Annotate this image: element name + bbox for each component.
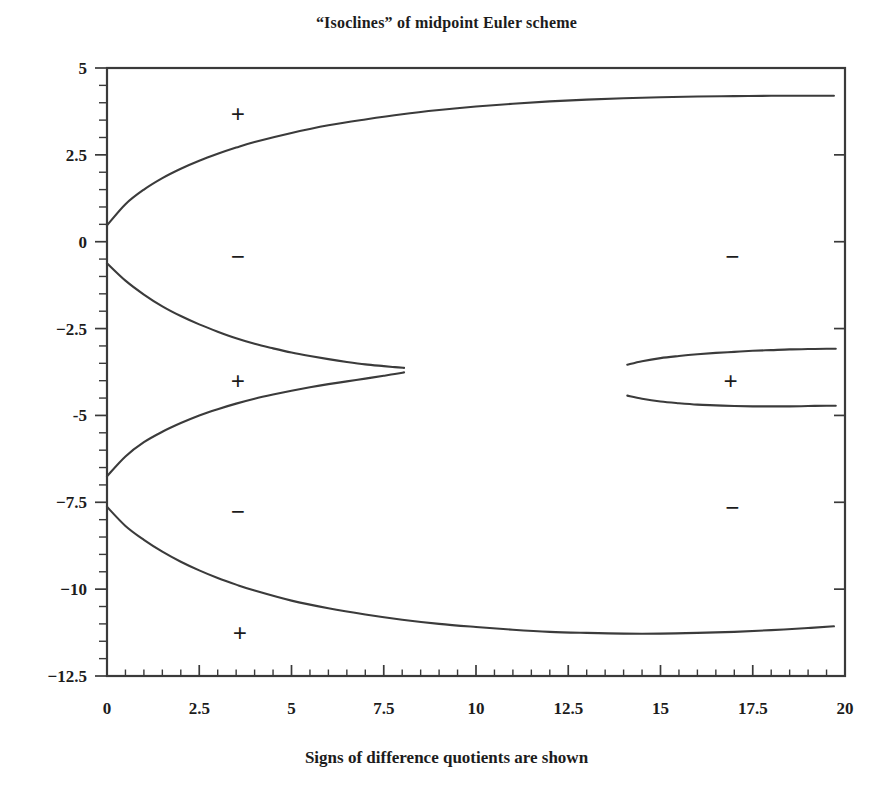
curve-third-branch xyxy=(107,372,404,476)
y-tick-labels: 52.50−2.5-5−7.5−10−12.5 xyxy=(48,59,87,686)
y-tick-label: −2.5 xyxy=(56,320,87,339)
sign-annotation: + xyxy=(231,101,245,128)
figure-container: “Isoclines” of midpoint Euler scheme 02.… xyxy=(0,0,893,801)
sign-annotations: +−+−+−+− xyxy=(231,101,740,646)
sign-annotation: + xyxy=(233,620,247,647)
curve-lower-branch xyxy=(107,507,834,634)
x-tick-label: 17.5 xyxy=(738,699,768,718)
curve-upper-branch xyxy=(107,96,834,226)
sign-annotation: − xyxy=(725,243,739,270)
x-tick-label: 12.5 xyxy=(553,699,583,718)
x-tick-label: 2.5 xyxy=(189,699,210,718)
sign-annotation: + xyxy=(723,368,737,395)
plot-area: 02.557.51012.51517.520 52.50−2.5-5−7.5−1… xyxy=(0,0,893,801)
x-tick-labels: 02.557.51012.51517.520 xyxy=(103,699,854,718)
x-tick-label: 5 xyxy=(287,699,296,718)
x-tick-label: 7.5 xyxy=(373,699,394,718)
x-tick-label: 0 xyxy=(103,699,112,718)
sign-annotation: − xyxy=(231,498,245,525)
sign-annotation: + xyxy=(231,368,245,395)
sign-annotation: − xyxy=(231,243,245,270)
x-tick-label: 20 xyxy=(837,699,854,718)
y-tick-label: −10 xyxy=(60,580,87,599)
x-tick-label: 10 xyxy=(468,699,485,718)
x-axis-label: Signs of difference quotients are shown xyxy=(0,748,893,768)
y-tick-label: 0 xyxy=(79,233,88,252)
y-tick-label: −12.5 xyxy=(48,667,87,686)
sign-annotation: − xyxy=(725,494,739,521)
curve-right-upper-branch xyxy=(627,349,835,365)
curve-second-branch xyxy=(107,263,404,368)
y-tick-label: −7.5 xyxy=(56,493,87,512)
curves-group xyxy=(107,96,836,634)
curve-right-lower-branch xyxy=(627,396,835,407)
x-tick-label: 15 xyxy=(652,699,669,718)
y-tick-label: 5 xyxy=(79,59,88,78)
y-tick-label: 2.5 xyxy=(66,146,87,165)
y-tick-label: -5 xyxy=(73,406,87,425)
